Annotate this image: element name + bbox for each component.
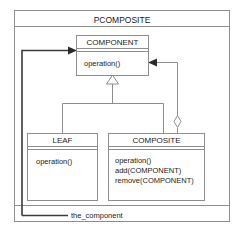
uml-class-diagram: PCOMPOSITE the_component COMPONENT opera… [0,0,244,236]
package-title: PCOMPOSITE [94,15,151,25]
component-operation-0: operation() [84,59,121,68]
association-label: the_component [71,211,124,220]
leaf-operation-0: operation() [36,157,73,166]
composite-operation-2: remove(COMPONENT) [115,176,194,185]
class-name-component: COMPONENT [87,38,139,47]
class-name-composite: COMPOSITE [132,136,180,145]
composite-operation-1: add(COMPONENT) [115,166,182,175]
diagram-canvas: PCOMPOSITE the_component COMPONENT opera… [0,0,244,236]
composite-operation-0: operation() [115,156,152,165]
class-name-leaf: LEAF [52,136,72,145]
